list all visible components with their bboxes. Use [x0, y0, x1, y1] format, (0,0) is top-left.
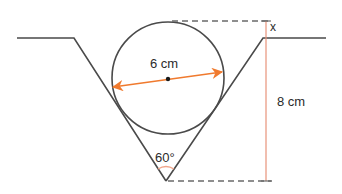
diameter-label: 6 cm — [150, 56, 178, 71]
groove-sphere-diagram: 6 cm 8 cm x 60° — [0, 0, 342, 194]
height-label: 8 cm — [277, 94, 305, 109]
center-dot — [166, 77, 170, 81]
groove-right-side — [166, 38, 326, 181]
unknown-x-label: x — [270, 20, 276, 34]
angle-label: 60° — [155, 150, 175, 165]
groove-left-side — [17, 38, 166, 181]
angle-arc — [158, 167, 174, 170]
